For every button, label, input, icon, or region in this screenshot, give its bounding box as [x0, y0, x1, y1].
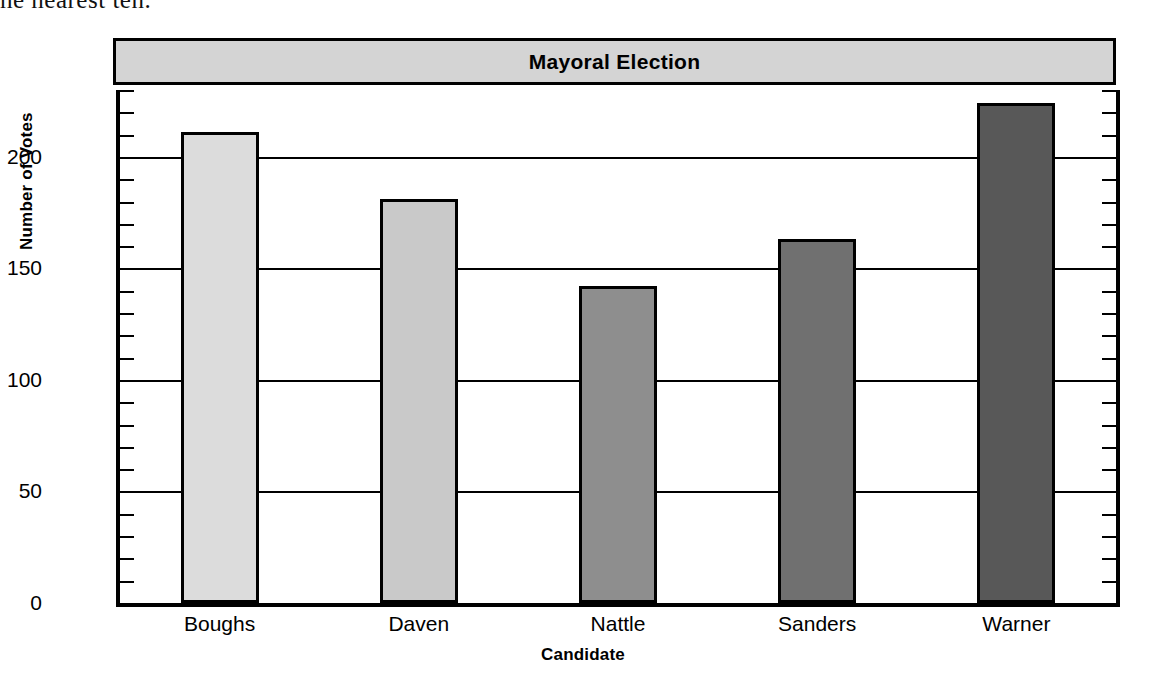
y-axis-minor-tick — [120, 112, 134, 114]
y-axis-minor-tick — [120, 202, 134, 204]
y-axis-tick-label: 150 — [0, 256, 42, 280]
y-axis-tick-label: 200 — [0, 145, 42, 169]
y-axis-minor-tick — [120, 469, 134, 471]
y-axis-minor-tick — [1102, 514, 1116, 516]
x-axis-category-label: Sanders — [778, 612, 856, 636]
y-axis-minor-tick — [120, 313, 134, 315]
bar-nattle — [579, 286, 657, 603]
y-axis-minor-tick — [1102, 179, 1116, 181]
plot-frame — [116, 90, 1120, 607]
gridline — [120, 268, 1116, 270]
y-axis-minor-tick — [1102, 425, 1116, 427]
y-axis-minor-tick — [120, 536, 134, 538]
y-axis-minor-tick — [120, 402, 134, 404]
y-axis-minor-tick — [1102, 469, 1116, 471]
x-axis-category-label: Nattle — [591, 612, 646, 636]
bar-daven — [380, 199, 458, 603]
chart-title-banner: Mayoral Election — [113, 38, 1116, 85]
y-axis-minor-tick — [1102, 558, 1116, 560]
y-axis-minor-tick — [1102, 246, 1116, 248]
y-axis-minor-tick — [1102, 90, 1116, 92]
y-axis-minor-tick — [1102, 291, 1116, 293]
y-axis-minor-tick — [1102, 202, 1116, 204]
y-axis-minor-tick — [120, 581, 134, 583]
y-axis-minor-tick — [120, 246, 134, 248]
y-axis-minor-tick — [1102, 402, 1116, 404]
chart-title: Mayoral Election — [529, 50, 701, 74]
y-axis-tick-label: 100 — [0, 368, 42, 392]
y-axis-minor-tick — [120, 425, 134, 427]
y-axis-minor-tick — [120, 179, 134, 181]
y-axis-tick-label: 50 — [0, 479, 42, 503]
bar-chart-figure: Mayoral Election Number of Votes Candida… — [0, 0, 1166, 698]
y-axis-minor-tick — [120, 135, 134, 137]
y-axis-minor-tick — [1102, 447, 1116, 449]
x-axis-title: Candidate — [0, 645, 1166, 665]
bar-boughs — [181, 132, 259, 603]
y-axis-minor-tick — [120, 335, 134, 337]
y-axis-minor-tick — [1102, 335, 1116, 337]
y-axis-minor-tick — [1102, 358, 1116, 360]
y-axis-minor-tick — [1102, 112, 1116, 114]
y-axis-minor-tick — [120, 358, 134, 360]
x-axis-category-label: Boughs — [184, 612, 255, 636]
x-axis-category-label: Warner — [982, 612, 1050, 636]
x-axis-category-label: Daven — [388, 612, 449, 636]
y-axis-minor-tick — [1102, 536, 1116, 538]
y-axis-minor-tick — [120, 514, 134, 516]
y-axis-minor-tick — [1102, 581, 1116, 583]
y-axis-minor-tick — [1102, 135, 1116, 137]
bar-warner — [977, 103, 1055, 603]
y-axis-minor-tick — [120, 90, 134, 92]
y-axis-tick-label: 0 — [0, 591, 42, 615]
y-axis-title: Number of Votes — [17, 220, 37, 250]
y-axis-minor-tick — [120, 224, 134, 226]
y-axis-minor-tick — [120, 558, 134, 560]
y-axis-minor-tick — [120, 447, 134, 449]
bar-sanders — [778, 239, 856, 603]
gridline — [120, 157, 1116, 159]
y-axis-minor-tick — [1102, 224, 1116, 226]
y-axis-minor-tick — [1102, 313, 1116, 315]
y-axis-minor-tick — [120, 291, 134, 293]
plot-area — [120, 90, 1116, 603]
